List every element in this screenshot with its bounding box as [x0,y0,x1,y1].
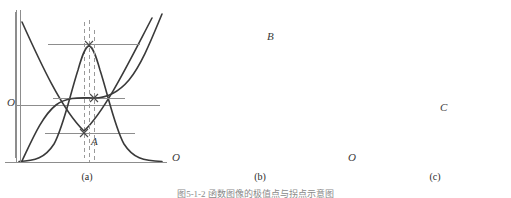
origin-label-c: O [348,152,356,163]
panel-c-plot [0,0,171,198]
subcaption-b: (b) [240,171,280,182]
panel-b: O B (b) [170,0,340,198]
curve-s-c [22,14,162,161]
figure-bottom-caption: 图5-1-2 函数图像的极值点与拐点示意图 [0,189,511,198]
figure-root: O A (a) O B (b) [0,0,511,198]
origin-label-b: O [172,152,180,163]
subcaption-c: (c) [415,171,455,182]
point-label-b: B [267,31,274,42]
panel-c: O C (c) [340,0,511,198]
point-label-c: C [440,102,447,113]
